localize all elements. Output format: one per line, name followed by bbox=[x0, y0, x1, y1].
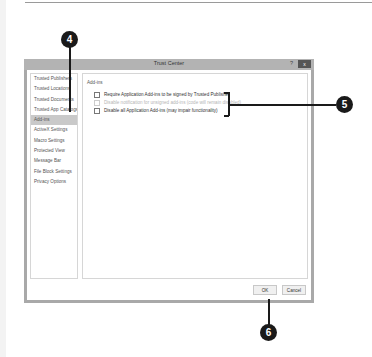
callout-4-badge: 4 bbox=[61, 31, 78, 48]
disable-all-addins-option[interactable]: Disable all Application Add-ins (may imp… bbox=[94, 108, 218, 115]
nav-item-macro-settings[interactable]: Macro Settings bbox=[31, 136, 77, 146]
page-margin bbox=[0, 0, 6, 357]
pane-heading: Add-ins bbox=[87, 80, 103, 85]
callout-5-leader bbox=[229, 104, 336, 106]
category-nav: Trusted Publishers Trusted Locations Tru… bbox=[30, 73, 78, 279]
disable-notification-option: Disable notification for unsigned add-in… bbox=[94, 100, 241, 107]
nav-item-file-block-settings[interactable]: File Block Settings bbox=[31, 167, 77, 177]
nav-item-add-ins[interactable]: Add-ins bbox=[31, 115, 77, 125]
nav-item-activex-settings[interactable]: ActiveX Settings bbox=[31, 125, 77, 135]
callout-5-bracket-top bbox=[224, 92, 229, 94]
top-divider bbox=[25, 2, 372, 3]
trust-center-dialog: Trust Center ? x Trusted Publishers Trus… bbox=[24, 59, 314, 303]
callout-5-bracket-bottom bbox=[224, 115, 229, 117]
option-label: Disable notification for unsigned add-in… bbox=[104, 100, 241, 105]
require-signed-option[interactable]: Require Application Add-ins to be signed… bbox=[94, 92, 230, 99]
callout-6-badge: 6 bbox=[260, 324, 277, 341]
cancel-button[interactable]: Cancel bbox=[282, 285, 306, 295]
nav-item-message-bar[interactable]: Message Bar bbox=[31, 156, 77, 166]
checkbox-icon[interactable] bbox=[94, 108, 100, 114]
callout-5-badge: 5 bbox=[336, 96, 353, 113]
ok-button[interactable]: OK bbox=[253, 285, 277, 295]
checkbox-icon bbox=[94, 100, 100, 106]
nav-item-privacy-options[interactable]: Privacy Options bbox=[31, 177, 77, 187]
title-bar: Trust Center ? x bbox=[24, 59, 314, 70]
checkbox-icon[interactable] bbox=[94, 92, 100, 98]
close-button[interactable]: x bbox=[298, 60, 311, 68]
help-button[interactable]: ? bbox=[290, 60, 293, 66]
dialog-title: Trust Center bbox=[24, 60, 314, 66]
option-label: Disable all Application Add-ins (may imp… bbox=[104, 108, 218, 113]
callout-4-leader bbox=[69, 47, 71, 112]
option-label: Require Application Add-ins to be signed… bbox=[104, 92, 230, 97]
nav-item-protected-view[interactable]: Protected View bbox=[31, 146, 77, 156]
